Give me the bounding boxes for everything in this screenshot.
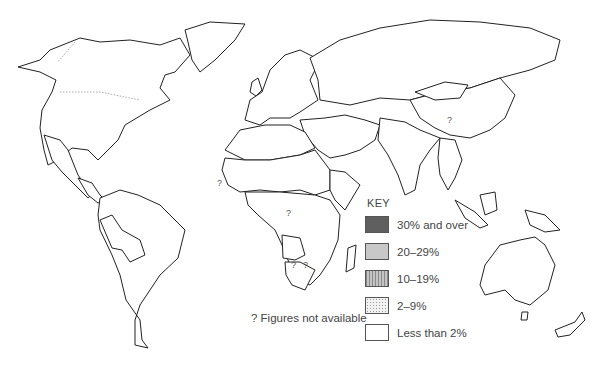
key-label: Less than 2% <box>397 327 467 339</box>
new-zealand <box>555 312 585 337</box>
swatch-blank <box>365 324 389 341</box>
key-item-2-9: 2–9% <box>365 292 525 319</box>
north-america <box>18 38 190 165</box>
map-key: KEY 30% and over 20–29% 10–19% 2–9% Less… <box>365 197 525 346</box>
key-item-30-plus: 30% and over <box>365 211 525 238</box>
greenland <box>185 22 245 72</box>
swatch-light <box>365 243 389 260</box>
swatch-dotted <box>365 297 389 314</box>
key-label: 20–29% <box>397 246 439 258</box>
unavailable-marker-southern-africa-1: ? <box>291 260 296 270</box>
east-horn <box>330 170 360 210</box>
southeast-asia <box>438 138 462 190</box>
key-item-under-2: Less than 2% <box>365 319 525 346</box>
unavailable-marker-central-africa: ? <box>286 208 291 218</box>
south-america <box>98 190 185 348</box>
key-label: 30% and over <box>397 219 468 231</box>
key-label: 10–19% <box>397 273 439 285</box>
madagascar <box>346 245 356 272</box>
key-title: KEY <box>367 197 525 209</box>
unavailable-marker-china: ? <box>447 115 452 125</box>
new-guinea <box>525 210 560 232</box>
south-asia <box>378 118 440 195</box>
figures-not-available-note: ? Figures not available <box>251 312 367 324</box>
swatch-hatch <box>365 270 389 287</box>
key-item-20-29: 20–29% <box>365 238 525 265</box>
key-label: 2–9% <box>397 300 426 312</box>
unavailable-marker-west-africa: ? <box>217 178 222 188</box>
key-item-10-19: 10–19% <box>365 265 525 292</box>
unavailable-marker-southern-africa-2: ? <box>303 260 308 270</box>
swatch-dark <box>365 216 389 233</box>
